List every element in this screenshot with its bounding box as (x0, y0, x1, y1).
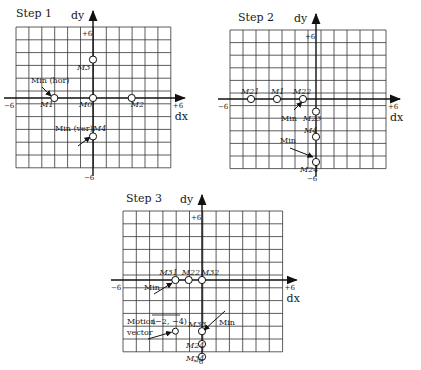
annotation-min-m24: Min (280, 136, 296, 145)
panel-title: Step 3 (126, 192, 162, 205)
annotation-motion-vector-line2: vector (126, 328, 153, 337)
tick-y-max: +6 (82, 30, 93, 38)
tick-y-max: +6 (305, 33, 316, 41)
point-label-m23: M23 (302, 114, 321, 123)
point-label-m22: M22 (181, 268, 200, 277)
search-point-m22 (299, 95, 306, 102)
point-label-m32: M32 (200, 268, 219, 277)
point-label-m21: M21 (240, 87, 259, 96)
point-label-m33: M33 (187, 320, 206, 329)
annotation-min-m33: Min (219, 318, 235, 327)
search-point-m4 (89, 133, 96, 140)
point-label-m1: M1 (270, 87, 284, 96)
point-label-m24: M24 (299, 165, 318, 174)
pointer-arrow (78, 137, 90, 146)
point-label-m2: M2 (130, 100, 144, 109)
point-label-m22: M22 (292, 87, 311, 96)
panel-title: Step 2 (238, 11, 274, 24)
motion-vector-value: (−2, −4) (152, 317, 187, 326)
point-label-m4: M4 (92, 124, 106, 133)
tick-x-max: +6 (285, 284, 296, 292)
point-label-m24: M24 (185, 341, 204, 350)
point-label-m4: M4 (303, 126, 317, 135)
tick-x-min: −6 (4, 102, 15, 110)
tick-x-max: +6 (388, 103, 399, 111)
search-point-m21 (247, 95, 254, 102)
dy-axis-label: dy (294, 12, 308, 25)
search-point-m3 (89, 56, 96, 63)
search-point-m22 (185, 276, 192, 283)
panel-step2: Step 2dxdy−6+6+6−6M21M1M22M23M4M24MinMin (218, 11, 404, 183)
tick-y-min: −6 (84, 174, 95, 182)
panel-step3: Step 3dxdy−6+6+6−6M31M22M32M33M24M34MinM… (111, 192, 301, 366)
point-label-m1: M1 (39, 100, 53, 109)
dx-axis-label: dx (287, 292, 301, 305)
annotation-min-m22: Min (281, 114, 297, 123)
panel-title: Step 1 (16, 7, 52, 20)
dy-axis-label: dy (180, 193, 194, 206)
point-label-m3: M3 (76, 63, 90, 72)
tick-x-min: −6 (111, 284, 122, 292)
tick-y-max: +6 (191, 214, 202, 222)
annotation-min-m31: Min (144, 283, 160, 292)
search-point-m31 (172, 276, 179, 283)
annotation-min-hor: Min (hor) (31, 76, 69, 85)
dx-axis-label: dx (390, 111, 404, 124)
point-label-m34: M34 (185, 354, 204, 363)
tick-x-max: +6 (173, 102, 184, 110)
motion-vector-point (172, 328, 178, 334)
annotation-min-ver: Min (ver) (55, 124, 93, 133)
search-point-m32 (198, 276, 205, 283)
panel-step1: Step 1dxdy−6+6+6−6M0M1M2M3M4Min (hor)Min… (4, 7, 189, 182)
dy-axis-label: dy (71, 9, 85, 22)
motion-search-diagram: Step 1dxdy−6+6+6−6M0M1M2M3M4Min (hor)Min… (0, 0, 421, 370)
point-label-m0: M0 (78, 100, 92, 109)
point-label-m31: M31 (158, 268, 177, 277)
pointer-arrow (42, 87, 51, 96)
tick-x-min: −6 (218, 103, 229, 111)
tick-y-min: −6 (307, 175, 318, 183)
dx-axis-label: dx (175, 110, 189, 123)
search-point-m1 (273, 95, 280, 102)
